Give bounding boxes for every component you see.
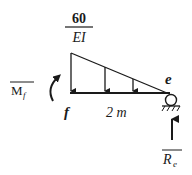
point-f-label: f — [64, 104, 71, 120]
reaction-subscript: e — [173, 159, 177, 169]
reaction-symbol: R — [162, 152, 172, 167]
moment-subscript: f — [23, 90, 27, 100]
triangular-load — [71, 53, 167, 93]
moment-label: M f — [10, 82, 34, 100]
load-numerator: 60 — [72, 11, 86, 26]
load-denominator: EI — [71, 30, 87, 45]
ground-hatch — [162, 106, 180, 111]
moment-symbol: M — [11, 83, 23, 98]
span-label: 2 m — [106, 105, 127, 120]
load-slope-line — [71, 53, 167, 93]
roller-circle — [166, 95, 177, 106]
point-e-label: e — [165, 71, 172, 87]
load-magnitude-label: 60 EI — [65, 11, 93, 45]
roller-support — [162, 95, 180, 112]
beam-diagram: 60 EI R e M f f e 2 m — [0, 0, 192, 175]
reaction-label: R e — [162, 150, 182, 169]
moment-arc-icon — [50, 77, 58, 101]
